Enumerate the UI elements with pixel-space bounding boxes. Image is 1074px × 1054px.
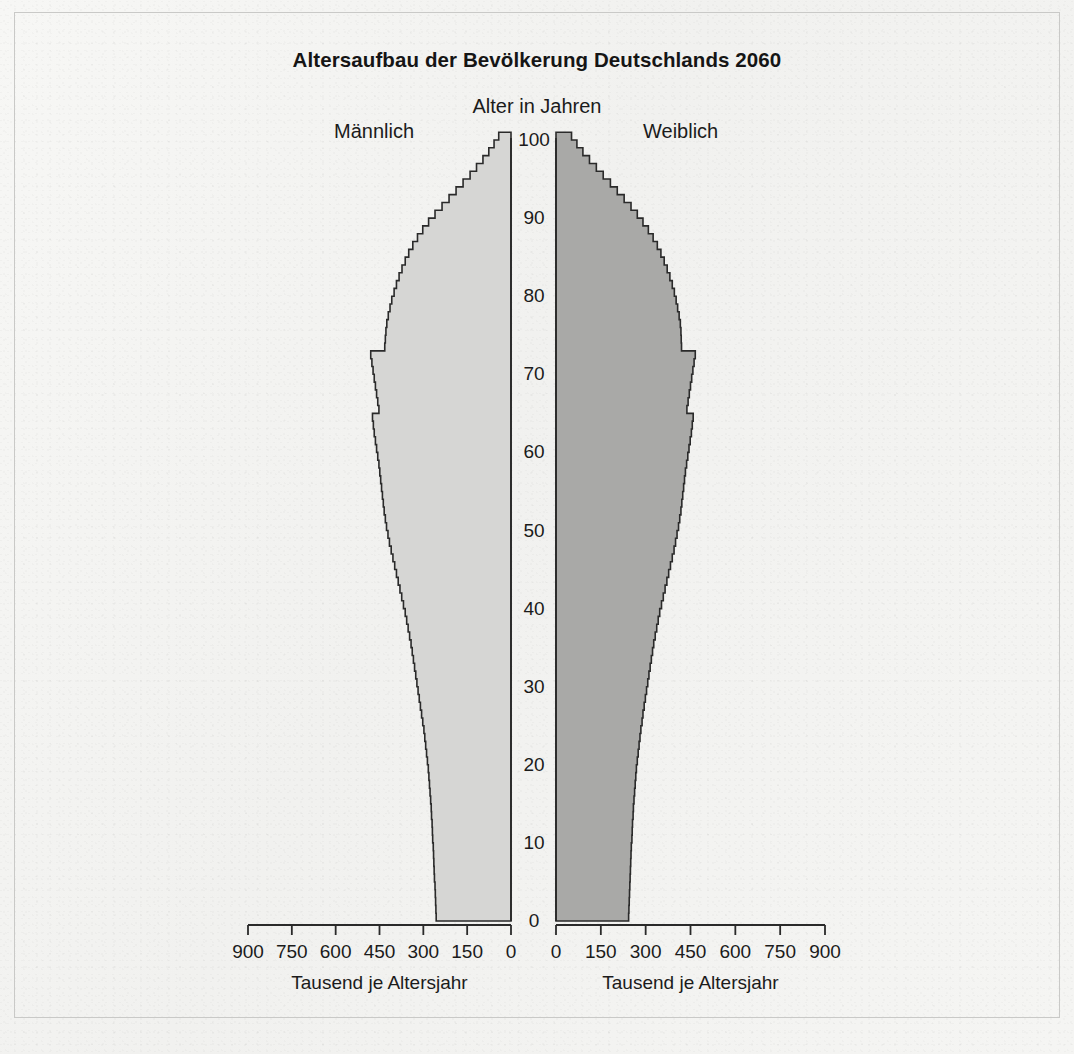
age-tick-label-30: 30	[511, 676, 557, 698]
age-tick-label-60: 60	[511, 441, 557, 463]
male-value-tick-label-900: 900	[232, 941, 264, 963]
page-title: Altersaufbau der Bevölkerung Deutschland…	[0, 48, 1074, 72]
age-tick-label-10: 10	[511, 832, 557, 854]
age-tick-label-100: 100	[511, 129, 557, 151]
age-tick-label-90: 90	[511, 207, 557, 229]
male-value-tick-label-150: 150	[451, 941, 483, 963]
age-axis-scale: 0102030405060708090100	[511, 138, 557, 922]
female-value-tick-label-450: 450	[675, 941, 707, 963]
female-value-tick-label-150: 150	[585, 941, 617, 963]
female-population-silhouette	[556, 132, 695, 921]
age-tick-label-80: 80	[511, 285, 557, 307]
female-value-tick-label-750: 750	[764, 941, 796, 963]
male-axis-caption: Tausend je Altersjahr	[291, 972, 467, 994]
male-value-tick-label-750: 750	[276, 941, 308, 963]
male-value-tick-label-300: 300	[407, 941, 439, 963]
age-axis-title: Alter in Jahren	[0, 95, 1074, 118]
scanned-page: Altersaufbau der Bevölkerung Deutschland…	[0, 0, 1074, 1054]
age-tick-label-70: 70	[511, 363, 557, 385]
female-side-heading: Weiblich	[643, 120, 718, 143]
male-value-tick-label-600: 600	[320, 941, 352, 963]
female-axis-caption: Tausend je Altersjahr	[602, 972, 778, 994]
female-value-tick-label-900: 900	[809, 941, 841, 963]
male-value-tick-label-450: 450	[364, 941, 396, 963]
female-value-tick-label-600: 600	[719, 941, 751, 963]
male-value-tick-label-0: 0	[506, 941, 517, 963]
age-tick-label-0: 0	[511, 910, 557, 932]
male-population-silhouette	[371, 132, 511, 921]
female-value-tick-label-300: 300	[630, 941, 662, 963]
male-population-area	[371, 132, 511, 921]
male-side-heading: Männlich	[334, 120, 414, 143]
age-tick-label-40: 40	[511, 598, 557, 620]
female-value-tick-label-0: 0	[551, 941, 562, 963]
age-tick-label-20: 20	[511, 754, 557, 776]
age-tick-label-50: 50	[511, 520, 557, 542]
female-population-area	[556, 132, 695, 921]
